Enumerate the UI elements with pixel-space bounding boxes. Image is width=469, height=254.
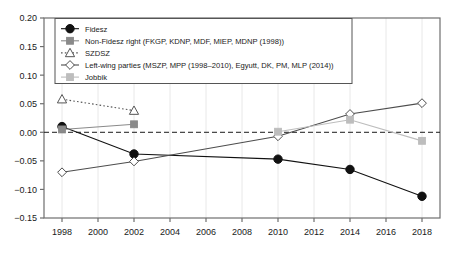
y-tick-label-5: 0.10: [19, 71, 37, 81]
x-tick-label-2012: 2012: [304, 227, 324, 237]
x-tick-label-2000: 2000: [88, 227, 108, 237]
legend-label-0: Fidesz: [85, 25, 108, 34]
x-tick-label-1998: 1998: [52, 227, 72, 237]
y-tick-label-4: 0.05: [19, 99, 37, 109]
series-szdsz-point-0: [57, 95, 66, 103]
chart-canvas: −0.15−0.10−0.050.000.050.100.150.2019982…: [0, 0, 469, 254]
chart-figure: −0.15−0.10−0.050.000.050.100.150.2019982…: [0, 0, 469, 254]
x-axis: 1998200020022004200620082010201220142016…: [52, 218, 432, 237]
legend-entry-4[interactable]: Jobbik: [61, 73, 107, 82]
y-tick-label-0: −0.15: [14, 213, 37, 223]
series-leftwing-point-1: [130, 157, 139, 166]
legend-entry-0[interactable]: Fidesz: [61, 25, 108, 34]
legend-entry-1[interactable]: Non-Fidesz right (FKGP, KDNP, MDF, MIEP,…: [61, 37, 285, 46]
series-leftwing-point-0: [58, 168, 67, 177]
y-axis: −0.15−0.10−0.050.000.050.100.150.20: [14, 13, 44, 223]
series-jobbik-point-1: [347, 116, 354, 123]
x-tick-label-2018: 2018: [412, 227, 432, 237]
y-tick-label-6: 0.15: [19, 42, 37, 52]
series-fidesz-point-4: [418, 192, 426, 200]
legend-marker-0-point-0: [66, 25, 74, 33]
series-leftwing-point-4: [418, 99, 427, 108]
line-chart-svg: −0.15−0.10−0.050.000.050.100.150.2019982…: [0, 0, 469, 254]
x-tick-label-2006: 2006: [196, 227, 216, 237]
series-fidesz-point-3: [346, 165, 354, 173]
y-tick-label-7: 0.20: [19, 13, 37, 23]
x-tick-label-2014: 2014: [340, 227, 360, 237]
legend-label-1: Non-Fidesz right (FKGP, KDNP, MDF, MIEP,…: [85, 37, 285, 46]
x-tick-label-2004: 2004: [160, 227, 180, 237]
x-tick-label-2008: 2008: [232, 227, 252, 237]
legend-marker-1-point-0: [67, 37, 74, 44]
legend-label-3: Left-wing parties (MSZP, MPP (1998–2010)…: [85, 61, 334, 70]
series-nonfidesz-point-1: [131, 121, 138, 128]
series-nonfidesz-point-0: [59, 126, 66, 133]
legend-entry-3[interactable]: Left-wing parties (MSZP, MPP (1998–2010)…: [61, 61, 334, 71]
y-tick-label-3: 0.00: [19, 128, 37, 138]
legend-label-4: Jobbik: [85, 73, 107, 82]
y-tick-label-2: −0.05: [14, 156, 37, 166]
x-tick-label-2016: 2016: [376, 227, 396, 237]
x-tick-label-2002: 2002: [124, 227, 144, 237]
series-jobbik-point-2: [419, 137, 426, 144]
x-tick-label-2010: 2010: [268, 227, 288, 237]
legend-marker-4-point-0: [67, 74, 74, 81]
chart-legend: FideszNon-Fidesz right (FKGP, KDNP, MDF,…: [55, 19, 352, 84]
legend-label-2: SZDSZ: [85, 49, 110, 58]
series-fidesz-point-2: [274, 155, 282, 163]
series-jobbik-point-0: [275, 128, 282, 135]
y-tick-label-1: −0.10: [14, 185, 37, 195]
